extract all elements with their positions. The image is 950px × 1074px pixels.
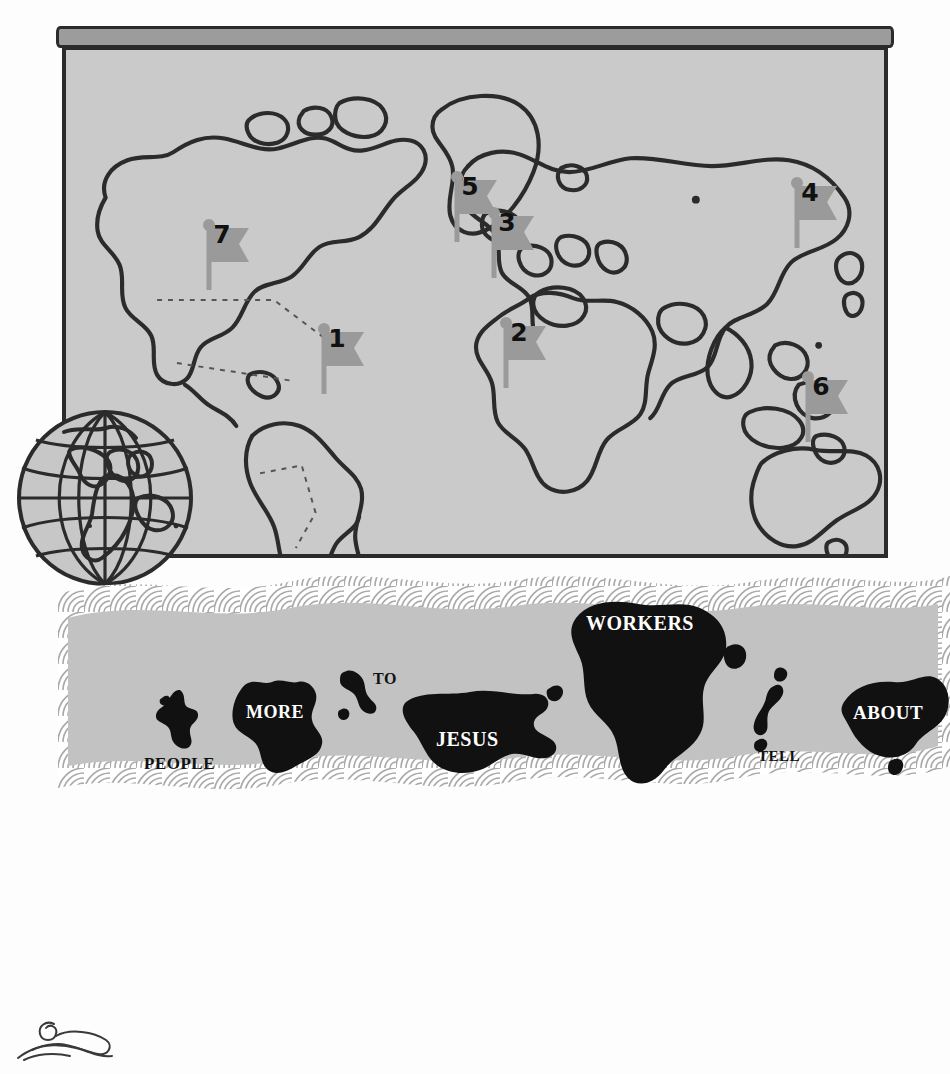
japan-silhouette [748,666,796,758]
map-flag-number: 2 [506,320,532,346]
country-shape-japan [748,666,796,758]
banner-word-about: ABOUT [853,702,923,724]
map-flag-number: 4 [797,180,823,206]
map-flag-7[interactable]: 7 [195,218,257,292]
country-shape-brazil [218,670,338,782]
africa-silhouette [554,578,750,790]
uk-silhouette [150,688,210,756]
map-flag-6[interactable]: 6 [794,370,856,444]
map-flag-4[interactable]: 4 [783,176,845,250]
map-flag-number: 1 [324,326,350,352]
sentence-banner: PEOPLE MORE TO JESUS WORKERS TELL [58,560,950,800]
banner-word-jesus: JESUS [436,728,499,751]
map-flag-2[interactable]: 2 [492,316,554,390]
brazil-silhouette [218,670,338,782]
map-flag-number: 7 [209,222,235,248]
map-flag-1[interactable]: 1 [310,322,372,396]
map-flag-number: 5 [457,174,483,200]
banner-word-to: TO [373,670,397,688]
map-flag-3[interactable]: 3 [480,206,542,280]
country-shape-africa [554,578,750,790]
map-hanging-rod [56,26,894,48]
flourish-swirl [8,1014,118,1066]
map-flag-number: 3 [494,210,520,236]
banner-word-people: PEOPLE [144,754,215,774]
map-flag-number: 6 [808,374,834,400]
banner-word-more: MORE [246,702,304,723]
country-shape-uk [150,688,210,756]
banner-word-workers: WORKERS [586,612,694,635]
swirl-icon [8,1014,118,1066]
banner-word-tell: TELL [758,748,800,765]
answer-area: THE WORLD NEEDS 1 2 3 [0,816,950,1074]
